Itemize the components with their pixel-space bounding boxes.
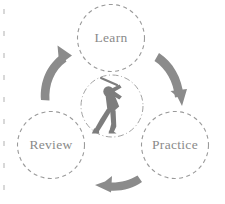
golfer-swing-icon [92, 78, 122, 134]
node-practice[interactable]: Practice [142, 112, 209, 179]
scan-artifacts [3, 9, 5, 190]
node-review-label: Review [29, 137, 72, 152]
node-practice-label: Practice [152, 137, 198, 152]
cycle-diagram-canvas: Learn Practice Review [0, 0, 225, 204]
cycle-diagram: Learn Practice Review [0, 0, 225, 204]
node-review[interactable]: Review [18, 112, 85, 179]
center-golfer-node [81, 75, 143, 137]
node-learn[interactable]: Learn [78, 5, 145, 72]
arrow-practice-to-review [95, 176, 142, 193]
node-learn-label: Learn [95, 30, 128, 45]
arrow-learn-to-practice [155, 53, 188, 106]
arrow-review-to-learn [41, 46, 72, 101]
